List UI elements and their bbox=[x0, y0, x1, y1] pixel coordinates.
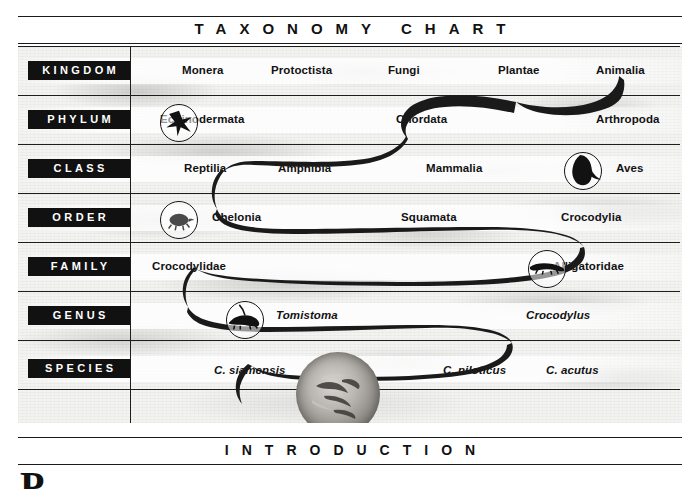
rank-label-family: FAMILY bbox=[28, 257, 130, 276]
taxon-fungi: Fungi bbox=[388, 64, 420, 76]
rank-label-order: ORDER bbox=[28, 208, 130, 227]
taxon-plantae: Plantae bbox=[498, 64, 540, 76]
taxon-animalia: Animalia bbox=[596, 64, 645, 76]
taxon-squamata: Squamata bbox=[401, 211, 457, 223]
taxon-tomistoma: Tomistoma bbox=[276, 309, 338, 321]
taxon-protoctista: Protoctista bbox=[271, 64, 332, 76]
rank-label-species: SPECIES bbox=[28, 359, 130, 378]
introduction-band: INTRODUCTION bbox=[18, 437, 682, 465]
taxon-amphibia: Amphibia bbox=[278, 162, 331, 174]
taxon-reptilia: Reptilia bbox=[184, 162, 226, 174]
taxon-crocodylus: Crocodylus bbox=[526, 309, 590, 321]
crocodile-icon bbox=[528, 250, 566, 288]
row-separator bbox=[18, 242, 680, 243]
gharial-icon bbox=[226, 301, 264, 339]
taxon-c-siamensis: C. siamensis bbox=[214, 364, 286, 376]
chart-body: KINGDOM PHYLUM CLASS ORDER FAMILY GENUS … bbox=[18, 46, 682, 423]
taxon-monera: Monera bbox=[182, 64, 224, 76]
taxon-aves: Aves bbox=[616, 162, 643, 174]
taxon-c-niloticus: C. niloticus bbox=[443, 364, 506, 376]
row-separator bbox=[18, 193, 680, 194]
body-dropcap: P bbox=[20, 466, 44, 489]
rank-label-phylum: PHYLUM bbox=[28, 110, 130, 129]
taxon-crocodylia: Crocodylia bbox=[561, 211, 621, 223]
rank-label-kingdom: KINGDOM bbox=[28, 61, 130, 80]
taxon-c-acutus: C. acutus bbox=[546, 364, 599, 376]
row-separator bbox=[18, 46, 680, 47]
rank-column-divider bbox=[130, 46, 131, 423]
rank-label-genus: GENUS bbox=[28, 306, 130, 325]
section-title: INTRODUCTION bbox=[18, 442, 682, 458]
taxon-crocodylidae: Crocodylidae bbox=[152, 260, 226, 272]
row-separator bbox=[18, 291, 680, 292]
row-separator bbox=[18, 340, 680, 341]
turtle-icon bbox=[160, 201, 198, 239]
taxon-mammalia: Mammalia bbox=[426, 162, 482, 174]
row-separator bbox=[18, 144, 680, 145]
taxon-arthropoda: Arthropoda bbox=[596, 113, 660, 125]
taxonomy-chart-page: TAXONOMY CHART KINGDOM PHYLUM CLASS ORDE… bbox=[0, 0, 700, 489]
taxon-chelonia: Chelonia bbox=[212, 211, 261, 223]
taxon-chordata: Chordata bbox=[396, 113, 447, 125]
row-separator bbox=[18, 95, 680, 96]
chart-title-band: TAXONOMY CHART bbox=[18, 16, 682, 44]
starfish-icon bbox=[160, 104, 198, 142]
page-title: TAXONOMY CHART bbox=[18, 20, 682, 37]
rank-label-class: CLASS bbox=[28, 159, 130, 178]
crocodile-photo bbox=[296, 352, 380, 423]
bird-icon bbox=[564, 152, 602, 190]
